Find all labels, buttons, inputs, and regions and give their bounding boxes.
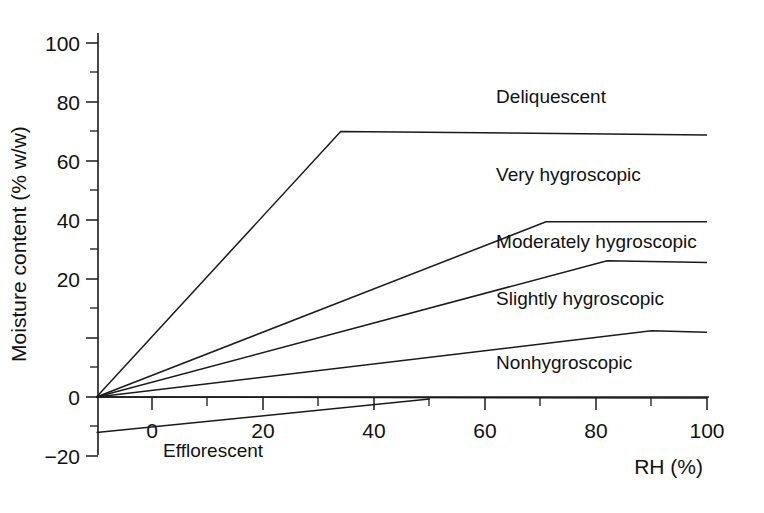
y-label-100: 100 — [45, 32, 80, 55]
series-label-nonhygroscopic: Nonhygroscopic — [496, 352, 632, 373]
chart-svg: 100 80 60 40 20 0 −20 Moisture content (… — [0, 0, 764, 513]
y-label-60: 60 — [57, 150, 80, 173]
y-label-20: 20 — [57, 268, 80, 291]
y-axis: 100 80 60 40 20 0 −20 Moisture content (… — [7, 32, 98, 468]
y-label-80: 80 — [57, 91, 80, 114]
y-axis-title: Moisture content (% w/w) — [7, 126, 30, 362]
series-label-deliquescent: Deliquescent — [496, 86, 607, 107]
series-label-slightly-hygroscopic: Slightly hygroscopic — [496, 288, 664, 309]
series-label-very-hygroscopic: Very hygroscopic — [496, 164, 641, 185]
y-label-neg20: −20 — [44, 445, 80, 468]
series-line-moderately-hygroscopic — [97, 261, 708, 397]
series-annotations: Deliquescent Very hygroscopic Moderately… — [163, 86, 697, 461]
series-label-moderately-hygroscopic: Moderately hygroscopic — [496, 231, 697, 252]
x-axis: 0 20 40 60 80 100 RH (%) — [98, 397, 725, 478]
series-label-efflorescent: Efflorescent — [163, 440, 264, 461]
x-label-20: 20 — [251, 419, 274, 442]
y-label-40: 40 — [57, 209, 80, 232]
y-label-0: 0 — [68, 386, 80, 409]
x-label-60: 60 — [473, 419, 496, 442]
x-axis-title: RH (%) — [634, 455, 703, 478]
x-label-40: 40 — [362, 419, 385, 442]
x-label-0: 0 — [146, 419, 158, 442]
x-label-80: 80 — [584, 419, 607, 442]
moisture-sorption-chart: 100 80 60 40 20 0 −20 Moisture content (… — [0, 0, 764, 513]
x-label-100: 100 — [689, 419, 724, 442]
